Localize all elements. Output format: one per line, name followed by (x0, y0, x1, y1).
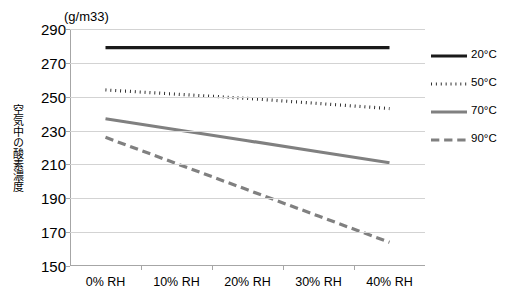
y-axis-tick-label: 210 (24, 157, 66, 172)
gridline (70, 232, 425, 233)
legend-item-label: 20°C (471, 48, 497, 60)
legend-item-50C[interactable]: 50°C (430, 68, 510, 96)
y-axis-tickmark (66, 63, 70, 64)
y-axis-tickmark (66, 97, 70, 98)
x-axis-tick-label: 0% RH (70, 275, 141, 289)
x-axis-tickmark (283, 266, 284, 270)
gridline (70, 29, 425, 30)
legend-swatch-icon (430, 132, 468, 144)
legend-item-90C[interactable]: 90°C (430, 124, 510, 152)
gridline (70, 63, 425, 64)
plot-area (70, 29, 425, 266)
y-axis-tick-label: 250 (24, 90, 66, 105)
legend-item-20C[interactable]: 20°C (430, 40, 510, 68)
y-axis-tick-label: 270 (24, 56, 66, 71)
legend-item-label: 90°C (471, 132, 497, 144)
series-line-50C (106, 90, 390, 109)
gridline (70, 131, 425, 132)
x-axis-tick-label: 30% RH (283, 275, 354, 289)
oxygen-concentration-line-chart: 空気中の酸素濃度 150170190210230250270290 (g/m33… (0, 0, 513, 306)
x-axis-tick-label: 40% RH (354, 275, 425, 289)
x-axis-tickmark (141, 266, 142, 270)
legend-item-label: 50°C (471, 76, 497, 88)
legend-swatch-icon (430, 76, 468, 88)
y-axis-tickmark (66, 266, 70, 267)
y-axis-tickmark (66, 131, 70, 132)
y-axis-tick-label: 170 (24, 225, 66, 240)
y-axis-tick-labels: 150170190210230250270290 (22, 0, 66, 306)
legend-swatch-icon (430, 104, 468, 116)
y-axis-tickmark (66, 164, 70, 165)
y-axis-tick-label: 230 (24, 124, 66, 139)
x-axis-tickmark (354, 266, 355, 270)
y-axis-tick-label: 150 (24, 259, 66, 274)
gridline (70, 198, 425, 199)
series-line-70C (106, 119, 390, 163)
legend-item-70C[interactable]: 70°C (430, 96, 510, 124)
legend-item-label: 70°C (471, 104, 497, 116)
y-axis-tickmark (66, 232, 70, 233)
y-axis-tickmark (66, 198, 70, 199)
x-axis-tickmark (212, 266, 213, 270)
series-line-90C (106, 137, 390, 242)
x-axis-tick-label: 10% RH (141, 275, 212, 289)
series-container (70, 29, 425, 266)
y-axis-tickmark (66, 29, 70, 30)
legend-swatch-icon (430, 48, 468, 60)
y-axis-unit-label: (g/m33) (64, 9, 109, 24)
gridline (70, 97, 425, 98)
y-axis-tick-label: 290 (24, 22, 66, 37)
x-axis-tick-label: 20% RH (212, 275, 283, 289)
chart-legend: 20°C50°C70°C90°C (430, 40, 510, 152)
gridline (70, 164, 425, 165)
y-axis-tick-label: 190 (24, 191, 66, 206)
